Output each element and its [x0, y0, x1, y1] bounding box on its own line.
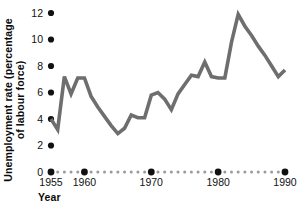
- y-axis-ticks: 024681012: [31, 7, 54, 178]
- x-tick-dot-minor: [56, 171, 59, 174]
- y-tick-dot: [48, 89, 54, 95]
- unemployment-rate-chart: Unemployment rate (percentage of labour …: [0, 0, 307, 211]
- y-tick-dot: [48, 142, 54, 148]
- x-tick-dot-minor: [76, 171, 79, 174]
- x-tick-label: 1970: [140, 176, 164, 188]
- x-tick-label: 1960: [73, 176, 97, 188]
- x-tick-dot-major: [81, 169, 88, 176]
- x-tick-dot-major: [282, 169, 289, 176]
- y-tick-label: 12: [31, 7, 43, 19]
- x-axis-title: Year: [38, 191, 61, 203]
- x-tick-dot-minor: [103, 171, 106, 174]
- x-axis-minor-ticks: [56, 171, 280, 174]
- x-tick-dot-minor: [130, 171, 133, 174]
- x-tick-label: 1955: [39, 176, 63, 188]
- chart-canvas: Unemployment rate (percentage of labour …: [0, 0, 307, 211]
- x-tick-dot-minor: [177, 171, 180, 174]
- x-tick-dot-minor: [203, 171, 206, 174]
- x-tick-dot-minor: [197, 171, 200, 174]
- x-tick-dot-minor: [110, 171, 113, 174]
- x-tick-dot-minor: [170, 171, 173, 174]
- x-tick-dot-minor: [257, 171, 260, 174]
- x-tick-dot-minor: [116, 171, 119, 174]
- x-tick-dot-minor: [270, 171, 273, 174]
- x-tick-dot-minor: [63, 171, 66, 174]
- x-tick-dot-minor: [190, 171, 193, 174]
- x-tick-dot-minor: [136, 171, 139, 174]
- x-tick-dot-minor: [277, 171, 280, 174]
- x-tick-dot-minor: [237, 171, 240, 174]
- x-tick-dot-minor: [123, 171, 126, 174]
- x-tick-dot-minor: [243, 171, 246, 174]
- y-axis-title-group: Unemployment rate (percentage of labour …: [2, 18, 26, 181]
- y-tick-label: 6: [37, 86, 43, 98]
- x-tick-dot-minor: [163, 171, 166, 174]
- unemployment-line-series: [51, 14, 285, 133]
- x-tick-label: 1980: [206, 176, 230, 188]
- x-tick-dot-minor: [230, 171, 233, 174]
- x-tick-dot-minor: [70, 171, 73, 174]
- x-tick-dot-minor: [143, 171, 146, 174]
- y-tick-label: 8: [37, 60, 43, 72]
- x-tick-dot-minor: [223, 171, 226, 174]
- x-tick-dot-minor: [156, 171, 159, 174]
- x-tick-label: 1990: [273, 176, 297, 188]
- x-tick-dot-major: [215, 169, 222, 176]
- y-tick-dot: [48, 10, 54, 16]
- x-axis-tick-labels: 19551960197019801990: [39, 176, 297, 188]
- x-tick-dot-minor: [183, 171, 186, 174]
- y-tick-label: 10: [31, 33, 43, 45]
- y-tick-label: 2: [37, 139, 43, 151]
- x-tick-dot-minor: [250, 171, 253, 174]
- x-tick-dot-major: [48, 169, 55, 176]
- x-tick-dot-minor: [90, 171, 93, 174]
- x-tick-dot-minor: [210, 171, 213, 174]
- x-tick-dot-minor: [263, 171, 266, 174]
- y-tick-label: 4: [37, 113, 43, 125]
- y-axis-title-line2: of labour force): [14, 61, 26, 140]
- y-axis-title-line1: Unemployment rate (percentage: [2, 18, 14, 181]
- x-tick-dot-major: [148, 169, 155, 176]
- x-tick-dot-minor: [96, 171, 99, 174]
- y-tick-dot: [48, 36, 54, 42]
- y-tick-dot: [48, 63, 54, 69]
